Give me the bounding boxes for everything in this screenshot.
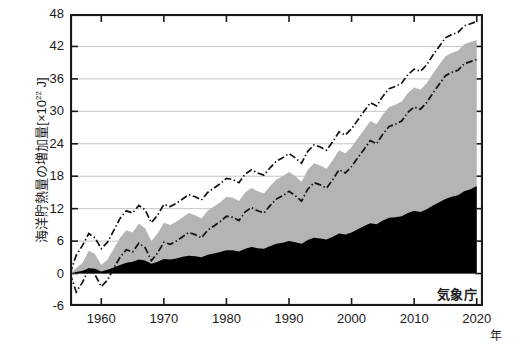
x-tick-label: 2010: [400, 312, 429, 326]
agency-credit: 気象庁: [437, 287, 478, 302]
x-tick-label: 1990: [275, 312, 304, 326]
ocean-heat-content-chart: 海洋貯熱量の増加量[×1022 J] -60612182430364248 気象…: [0, 0, 520, 349]
x-tick-label: 1980: [212, 312, 241, 326]
x-tick-label: 1970: [149, 312, 178, 326]
y-tick-label: 48: [36, 9, 64, 19]
x-tick-label: 1960: [87, 312, 116, 326]
y-tick-label: 0: [36, 269, 64, 279]
y-axis-tick-labels: -60612182430364248: [36, 0, 64, 349]
y-tick-label: 12: [36, 204, 64, 214]
x-axis-unit-label: 年: [490, 329, 502, 343]
x-tick-label: 2020: [462, 312, 491, 326]
y-tick-label: 36: [36, 74, 64, 84]
y-tick-label: -6: [36, 301, 64, 311]
y-tick-label: 30: [36, 106, 64, 116]
x-axis-tick-labels: 1960197019801990200020102020: [0, 312, 520, 330]
y-tick-label: 24: [36, 139, 64, 149]
plot-area: 気象庁: [70, 14, 483, 306]
y-tick-label: 42: [36, 41, 64, 51]
y-tick-label: 18: [36, 171, 64, 181]
x-tick-label: 2000: [337, 312, 366, 326]
chart-canvas: [70, 14, 483, 306]
y-tick-label: 6: [36, 236, 64, 246]
